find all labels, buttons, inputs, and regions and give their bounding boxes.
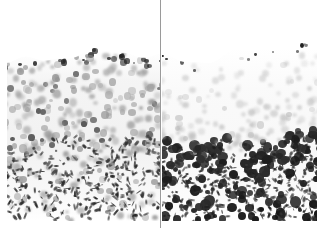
stained-nucleus [166, 94, 171, 99]
stained-nucleus [95, 133, 101, 138]
stained-nucleus [133, 62, 135, 65]
stained-nucleus [70, 85, 75, 90]
stained-nucleus [283, 205, 287, 210]
stained-nucleus [40, 109, 47, 116]
stained-nucleus [175, 115, 182, 121]
stained-nucleus [228, 199, 231, 202]
stained-nucleus [19, 189, 22, 192]
stained-nucleus [21, 80, 26, 85]
stained-nucleus [195, 118, 202, 125]
stained-nucleus [293, 208, 295, 211]
stained-nucleus [87, 147, 91, 149]
stained-nucleus [189, 87, 196, 93]
stained-nucleus [34, 187, 36, 193]
stained-nucleus [94, 127, 100, 132]
stained-nucleus [246, 184, 252, 187]
stained-nucleus [27, 197, 30, 201]
stained-nucleus [90, 117, 97, 124]
stained-nucleus [17, 94, 25, 101]
stained-nucleus [257, 98, 263, 105]
stained-nucleus [37, 85, 43, 91]
stained-nucleus [182, 102, 189, 109]
stained-nucleus [81, 86, 86, 91]
stained-nucleus [167, 195, 171, 198]
stained-nucleus [162, 61, 167, 66]
stained-nucleus [37, 65, 43, 71]
stained-nucleus [124, 58, 129, 63]
stained-nucleus [166, 185, 171, 189]
stained-nucleus [72, 124, 78, 129]
stained-nucleus [306, 184, 309, 187]
stained-nucleus [87, 112, 92, 117]
stained-nucleus [131, 102, 137, 107]
stained-nucleus [218, 74, 225, 81]
stained-nucleus [7, 85, 14, 92]
stained-nucleus [77, 178, 80, 182]
stained-nucleus [121, 149, 124, 154]
stained-nucleus [108, 178, 111, 182]
stained-nucleus [309, 126, 317, 134]
stained-nucleus [286, 115, 292, 121]
stained-nucleus [127, 170, 132, 172]
stained-nucleus [52, 208, 54, 212]
stained-nucleus [217, 164, 224, 171]
stained-nucleus [182, 75, 189, 82]
stained-nucleus [179, 101, 183, 105]
stained-nucleus [290, 156, 300, 166]
stained-nucleus [209, 88, 214, 93]
stained-nucleus [195, 145, 201, 150]
stained-nucleus [309, 107, 315, 112]
stained-nucleus [281, 156, 289, 163]
stained-nucleus [101, 183, 103, 185]
stained-nucleus [270, 110, 278, 117]
stained-nucleus [29, 68, 35, 74]
panel-divider [160, 0, 161, 228]
stained-nucleus [195, 68, 200, 72]
stained-nucleus [218, 206, 225, 208]
stained-nucleus [34, 201, 38, 208]
stained-nucleus [118, 181, 122, 184]
stained-nucleus [50, 183, 53, 187]
stained-nucleus [239, 127, 245, 132]
stained-nucleus [272, 51, 275, 53]
stained-nucleus [222, 106, 227, 110]
stained-nucleus [243, 102, 248, 107]
stained-nucleus [86, 192, 90, 196]
stained-nucleus [133, 179, 138, 185]
stained-nucleus [112, 137, 119, 145]
stained-nucleus [116, 156, 119, 158]
stained-nucleus [138, 70, 146, 77]
stained-nucleus [100, 129, 107, 136]
stained-nucleus [182, 148, 184, 150]
stained-nucleus [95, 81, 100, 87]
stained-nucleus [64, 125, 71, 131]
stained-nucleus [176, 131, 180, 135]
stained-nucleus [10, 137, 15, 141]
stained-nucleus [17, 213, 22, 220]
stained-nucleus [9, 106, 16, 113]
stained-nucleus [12, 214, 18, 220]
stained-nucleus [202, 109, 207, 114]
stained-nucleus [147, 106, 153, 111]
stained-nucleus [244, 153, 247, 158]
stained-nucleus [111, 56, 117, 62]
stained-nucleus [283, 193, 288, 196]
stained-nucleus [23, 65, 28, 70]
stained-nucleus [110, 175, 115, 177]
stained-nucleus [236, 84, 241, 89]
stained-nucleus [139, 106, 143, 110]
stained-nucleus [65, 210, 69, 215]
stained-nucleus [128, 70, 134, 76]
stained-nucleus [266, 132, 270, 137]
stained-nucleus [23, 85, 30, 93]
stained-nucleus [301, 161, 304, 164]
stained-nucleus [207, 178, 211, 181]
stained-nucleus [49, 99, 53, 103]
stained-nucleus [89, 94, 94, 99]
stained-nucleus [259, 75, 266, 82]
stained-nucleus [59, 178, 64, 180]
stained-nucleus [268, 83, 272, 87]
stained-nucleus [163, 101, 168, 105]
stained-nucleus [252, 203, 255, 208]
stained-nucleus [247, 58, 250, 60]
